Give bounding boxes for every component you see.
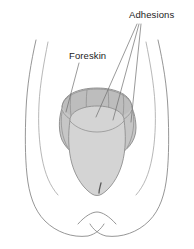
- right-thigh-inner-outline: [136, 42, 155, 195]
- label-adhesions: Adhesions: [129, 9, 174, 20]
- label-foreskin: Foreskin: [69, 50, 106, 61]
- glans: [69, 106, 126, 196]
- leader-adhesion-3: [131, 24, 141, 122]
- left-thigh-inner-outline: [39, 42, 58, 195]
- anatomy-illustration: Adhesions Foreskin: [0, 0, 194, 249]
- figure-root: Adhesions Foreskin: [0, 0, 194, 249]
- perineum-notch-outline: [78, 212, 116, 224]
- glans-group: [69, 106, 126, 196]
